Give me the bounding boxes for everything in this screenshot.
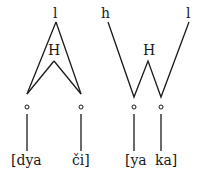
left-association-lines [27, 22, 81, 94]
syllable-ya: [ya [125, 153, 147, 167]
syllable-ka: ka] [155, 153, 177, 167]
left-top-tone-label: l [53, 6, 57, 20]
syllable-dya: [dya [11, 153, 42, 167]
right-tbu-nodes [132, 105, 163, 109]
l-to-dya-line [27, 22, 56, 94]
H-to-ci-line [54, 61, 81, 94]
right-mid-tone-label: H [143, 43, 155, 57]
tbu-node-ya [132, 105, 136, 109]
left-vertical-lines [27, 114, 81, 151]
syllable-ci: či] [72, 153, 90, 167]
l-to-ci-line [56, 22, 81, 94]
H-to-dya-line [27, 61, 54, 94]
tbu-node-ka [159, 105, 163, 109]
right-right-tone-label: l [186, 6, 190, 20]
left-mid-tone-label: H [48, 43, 60, 57]
tbu-node-dya [25, 105, 29, 109]
right-association-lines [108, 22, 189, 97]
right-left-tone-label: h [101, 6, 110, 20]
right-vertical-lines [134, 114, 161, 151]
h-H-l-contour-line [108, 22, 189, 97]
tbu-node-ci [79, 105, 83, 109]
autosegmental-diagram [0, 0, 200, 172]
left-tbu-nodes [25, 105, 83, 109]
